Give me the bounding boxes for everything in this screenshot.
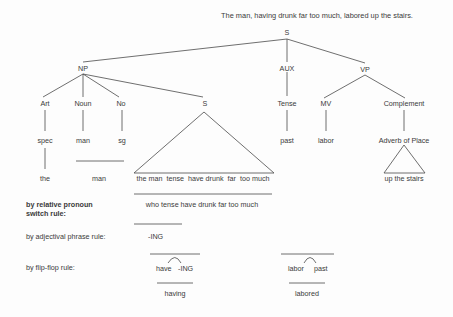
flip-flop-having: having: [164, 290, 185, 297]
flip-flop-labored: labored: [295, 290, 319, 297]
rule-label-flip-flop: by flip-flop rule:: [26, 263, 75, 272]
rule-label-relative-pronoun-1: by relative pronoun: [26, 200, 93, 209]
flip-flop-past: past: [314, 264, 328, 273]
node-art: Art: [40, 100, 49, 107]
node-complement: Complement: [384, 100, 425, 107]
node-vp: VP: [360, 66, 370, 73]
flip-flop-ing: -ING: [178, 264, 193, 273]
node-past: past: [280, 137, 294, 144]
leaf-man: man: [92, 175, 106, 182]
rule-result-relative-pronoun: who tense have drunk far too much: [146, 201, 258, 208]
flip-flop-labor: labor: [288, 264, 304, 273]
node-man: man: [76, 137, 90, 144]
leaf-the: the: [40, 175, 50, 182]
flip-flop-have: have: [156, 264, 172, 273]
rule-label-adjectival-phrase: by adjectival phrase rule:: [26, 232, 106, 241]
node-aux: AUX: [280, 65, 295, 72]
node-s-embedded: S: [203, 100, 208, 107]
rule-result-adjectival-phrase: -ING: [148, 232, 163, 241]
node-s-root: S: [285, 29, 290, 36]
node-noun: Noun: [74, 100, 91, 107]
node-tense: Tense: [277, 100, 296, 107]
node-labor: labor: [318, 137, 334, 144]
node-adverb-of-place: Adverb of Place: [379, 137, 430, 144]
node-sg: sg: [118, 137, 126, 144]
node-np: NP: [78, 65, 88, 72]
node-spec: spec: [37, 137, 52, 144]
rule-label-relative-pronoun-2: switch rule:: [26, 209, 66, 218]
sentence-title: The man, having drunk far too much, labo…: [221, 12, 413, 19]
leaf-embedded-string: the man tense have drunk far too much: [136, 175, 269, 182]
node-mv: MV: [321, 100, 332, 107]
node-no: No: [116, 100, 125, 107]
leaf-up-the-stairs: up the stairs: [384, 175, 423, 182]
